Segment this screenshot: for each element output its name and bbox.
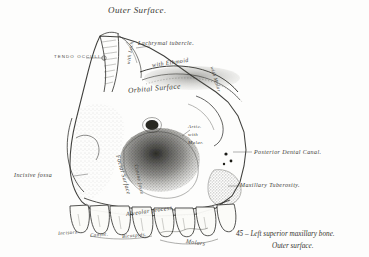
label-incisive-fossa: Incisive fossa (14, 172, 52, 178)
figure-caption-line2: Outer surface. (272, 242, 314, 250)
label-lachrymal-tubercle: Lachrymal tubercle. (138, 40, 194, 46)
label-posterior-dental-canal: Posterior Dental Canal. (254, 149, 321, 155)
label-maxillary-tuberosity: Maxillary Tuberosity. (240, 182, 300, 188)
label-artic-with-malar-line2: with (188, 132, 198, 137)
anatomical-figure: Outer Surface. TENDO OCCULI Lachrymal tu… (0, 0, 369, 257)
label-artic-with-malar-line1: Artic. (188, 124, 202, 129)
figure-caption-line1: 45 – Left superior maxillary bone. (236, 230, 335, 238)
figure-title: Outer Surface. (108, 6, 167, 15)
maxilla-engraving (0, 0, 369, 257)
label-tendo-oculi: TENDO OCCULI (54, 55, 100, 59)
label-artic-with-malar-line3: Malar. (188, 140, 204, 145)
